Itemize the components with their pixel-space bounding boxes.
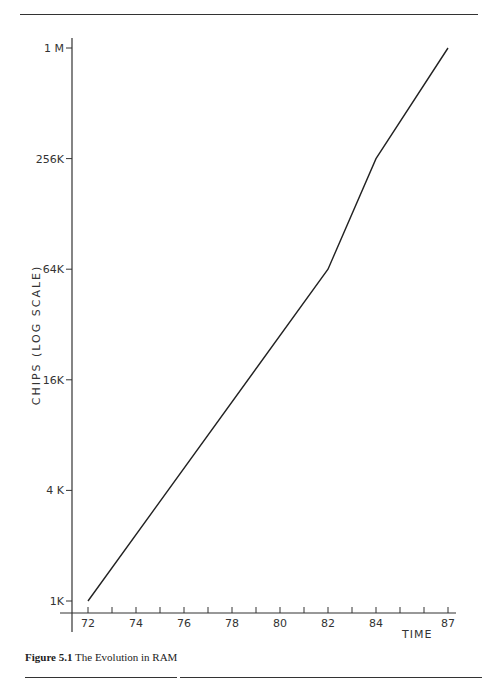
data-line (88, 48, 448, 601)
x-tick-label: 87 (441, 617, 455, 630)
x-ticks: 7274767880828487 (81, 607, 455, 630)
x-tick-label: 74 (129, 617, 143, 630)
y-tick-label: 1K (50, 595, 65, 608)
y-tick-label: 16K (43, 374, 65, 387)
figure-number: Figure 5.1 (25, 651, 72, 663)
ram-evolution-chart: 1K4 K16K64K256K1 M 7274767880828487 CHIP… (0, 0, 488, 683)
figure-title: The Evolution in RAM (75, 651, 177, 663)
y-tick-label: 256K (36, 153, 65, 166)
bottom-rule-right (180, 677, 482, 678)
x-tick-label: 76 (177, 617, 191, 630)
x-tick-label: 84 (369, 617, 383, 630)
x-tick-label: 78 (225, 617, 239, 630)
y-tick-label: 64K (43, 263, 65, 276)
bottom-rule-left (25, 677, 177, 678)
y-tick-label: 1 M (44, 42, 64, 55)
x-tick-label: 80 (273, 617, 287, 630)
x-tick-label: 72 (81, 617, 95, 630)
y-axis-label: CHIPS (LOG SCALE) (30, 265, 43, 406)
x-axis-label: TIME (401, 628, 432, 641)
x-tick-label: 82 (321, 617, 335, 630)
y-tick-label: 4 K (46, 484, 64, 497)
figure-caption: Figure 5.1 The Evolution in RAM (25, 651, 177, 663)
